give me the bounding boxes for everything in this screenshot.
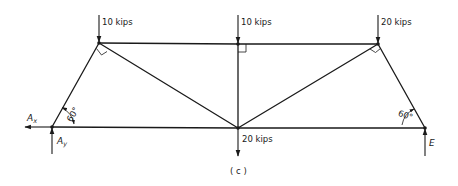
right-angle-mark-d (370, 49, 381, 53)
reaction-ay: Ay (52, 128, 67, 154)
load-b: 10 kips (99, 15, 133, 42)
load-f: 20 kips (238, 129, 273, 156)
truss-diagram: 10 kips 10 kips 20 kips 20 kips Ax Ay E … (0, 0, 458, 186)
member-bf (99, 43, 238, 128)
right-angle-mark-b (97, 49, 108, 56)
reaction-ax-label: Ax (26, 113, 37, 125)
angle-left: 60° (62, 105, 81, 124)
reaction-ax: Ax (25, 113, 51, 127)
figure-label: ( c ) (230, 166, 247, 176)
load-c: 10 kips (238, 15, 272, 43)
load-d: 20 kips (378, 15, 412, 43)
load-label-d: 20 kips (381, 17, 412, 27)
load-label-c: 10 kips (241, 17, 272, 27)
reaction-e-label: E (429, 138, 435, 148)
member-af (52, 127, 238, 128)
angle-right: 60° (397, 108, 415, 125)
angle-label-left: 60° (65, 105, 81, 123)
load-label-f: 20 kips (242, 134, 273, 144)
member-bc (99, 43, 238, 44)
reaction-e: E (425, 129, 435, 156)
reaction-ay-label: Ay (56, 136, 67, 148)
member-df (238, 44, 378, 128)
load-label-b: 10 kips (102, 17, 133, 27)
